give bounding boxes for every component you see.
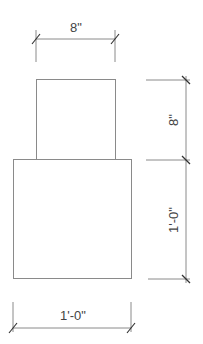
- top-width-dimension: 8": [32, 20, 119, 62]
- bottom-height-label: 1'-0": [166, 207, 181, 233]
- bottom-width-label: 1'-0": [60, 308, 86, 323]
- right-height-dimension: 8" 1'-0": [146, 76, 190, 283]
- top-width-label: 8": [70, 20, 82, 35]
- bottom-box: [14, 160, 132, 279]
- bottom-width-dimension: 1'-0": [9, 302, 135, 333]
- elevation-drawing: 8" 8" 1'-0" 1'-0": [0, 0, 203, 344]
- top-box: [37, 80, 116, 160]
- top-height-label: 8": [166, 114, 181, 126]
